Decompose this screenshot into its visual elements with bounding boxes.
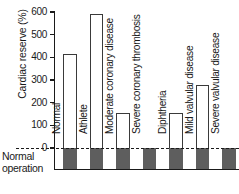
normal-operation-line-2: operation (2, 163, 54, 175)
bar-group: Diphtheria (160, 0, 186, 170)
bar-label: Diphtheria (158, 90, 169, 133)
bar-positive (90, 14, 104, 148)
normal-operation-block (196, 148, 210, 169)
bar-label: Mild valvular disease (184, 45, 195, 133)
bar-label: Moderate coronary disease (105, 18, 116, 134)
y-tick-label-200: 200 (0, 98, 47, 108)
y-tick-label-100: 100 (0, 120, 47, 130)
bar-label: Severe valvular disease (211, 32, 222, 133)
bar-label: Normal (52, 102, 63, 133)
y-tick-label-600: 600 (0, 7, 47, 17)
zero-reference-line (16, 148, 239, 149)
bar-group: Moderate coronary disease (107, 0, 133, 170)
normal-operation-block (63, 148, 77, 169)
bar-group: Mild valvular disease (186, 0, 212, 170)
bar-positive (196, 85, 210, 148)
normal-operation-line-1: Normal (2, 151, 54, 163)
bar-group: Severe coronary thrombosis (133, 0, 159, 170)
normal-operation-block (222, 148, 236, 169)
normal-operation-label: Normal operation (2, 151, 54, 174)
bar-label: Severe coronary thrombosis (131, 14, 142, 134)
plot-area: NormalAthleteModerate coronary diseaseSe… (54, 0, 239, 170)
cardiac-reserve-chart: Cardiac reserve (%) 0100200300400500600 … (0, 0, 239, 194)
bar-positive (169, 113, 183, 148)
bar-label: Athlete (79, 104, 90, 134)
bar-positive (63, 54, 77, 148)
bar-group: Normal (54, 0, 80, 170)
y-tick-label-300: 300 (0, 75, 47, 85)
normal-operation-block (143, 148, 157, 169)
normal-operation-block (90, 148, 104, 169)
y-tick-label-500: 500 (0, 30, 47, 40)
y-tick-label-400: 400 (0, 52, 47, 62)
bar-group: Severe valvular disease (213, 0, 239, 170)
normal-operation-block (116, 148, 130, 169)
bar-positive (116, 113, 130, 148)
normal-operation-block (169, 148, 183, 169)
